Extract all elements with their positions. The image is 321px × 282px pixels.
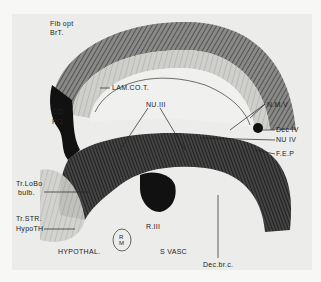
label-n-m-v: N.M.V xyxy=(267,101,288,108)
label-r-m: R M xyxy=(119,234,124,246)
label-dec-br-c: Dec.br.c. xyxy=(203,261,233,268)
label-nu-iii: NU.III xyxy=(146,101,166,108)
label-tr-str: Tr.STR. xyxy=(16,215,42,222)
label-hypoth: HypoTH xyxy=(16,225,43,232)
label-hypothal: HYPOTHAL. xyxy=(58,248,100,255)
label-f-e-p: F.E.P xyxy=(276,150,294,157)
label-po: PO. xyxy=(52,118,65,125)
label-brt: BrT. xyxy=(50,29,64,36)
label-dec-iv: Dec IV xyxy=(276,126,299,133)
label-s-vasc: S VASC xyxy=(160,248,187,255)
label-nu-iv: NU IV xyxy=(276,136,296,143)
label-co: CO. xyxy=(52,108,65,115)
label-r-iii: R.III xyxy=(146,223,160,230)
label-tr-lobo: Tr.LoBo xyxy=(16,180,42,187)
brain-section-drawing xyxy=(0,0,321,282)
label-bulb: bulb. xyxy=(18,189,35,196)
label-fib-opt: Fib opt xyxy=(50,20,74,27)
label-lam-co-t: LAM.CO.T. xyxy=(112,84,149,91)
